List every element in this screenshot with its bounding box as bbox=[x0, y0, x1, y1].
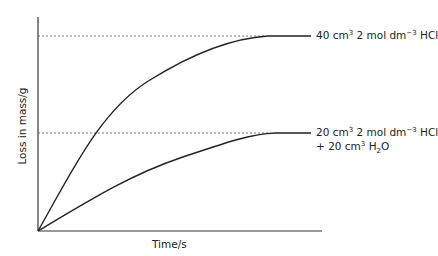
series-20cm3-hcl-water-curve bbox=[38, 133, 311, 231]
series-label-40cm3-hcl: 40 cm3 2 mol dm−3 HCl bbox=[316, 29, 438, 42]
series-label-20cm3-hcl-line2: + 20 cm3 H2O bbox=[316, 140, 389, 153]
y-axis-label: Loss in mass/g bbox=[16, 86, 28, 166]
series-label-20cm3-hcl-line1: 20 cm3 2 mol dm−3 HCl bbox=[316, 126, 438, 139]
x-axis-label: Time/s bbox=[152, 238, 187, 251]
